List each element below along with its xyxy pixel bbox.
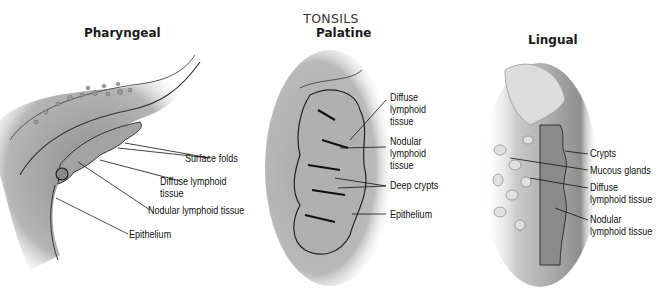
label-diffuse-line1: Diffuse (590, 182, 618, 194)
label-nodular-lymphoid-tissue: Nodular lymphoid tissue (148, 205, 244, 217)
lingual-drawing (482, 63, 598, 287)
label-nodular-line3: tissue (390, 160, 414, 172)
label-diffuse-lymphoid: Diffuse lymphoid (160, 176, 227, 188)
label-nodular-line2: lymphoid (390, 148, 426, 160)
label-nodular-line2: lymphoid tissue (590, 226, 652, 238)
label-epithelium: Epithelium (129, 229, 171, 241)
label-nodular-line1: Nodular (390, 136, 422, 148)
figure-title: TONSILS (0, 11, 662, 26)
label-diffuse-lymphoid-cont: tissue (160, 188, 184, 200)
panel-title-pharyngeal: Pharyngeal (84, 26, 161, 40)
palatine-drawing (265, 50, 395, 286)
panel-title-lingual: Lingual (528, 33, 578, 47)
label-mucous-glands: Mucous glands (590, 165, 651, 177)
label-crypts: Crypts (590, 148, 616, 160)
label-diffuse-line1: Diffuse (390, 92, 418, 104)
panel-title-palatine: Palatine (316, 26, 371, 40)
label-deep-crypts: Deep crypts (390, 180, 438, 192)
label-diffuse-line3: tissue (390, 116, 414, 128)
label-epithelium: Epithelium (390, 209, 432, 221)
pharyngeal-drawing (0, 55, 210, 270)
label-surface-folds: Surface folds (185, 153, 238, 165)
label-nodular-line1: Nodular (590, 214, 622, 226)
label-diffuse-line2: lymphoid (390, 104, 426, 116)
label-diffuse-line2: lymphoid tissue (590, 194, 652, 206)
